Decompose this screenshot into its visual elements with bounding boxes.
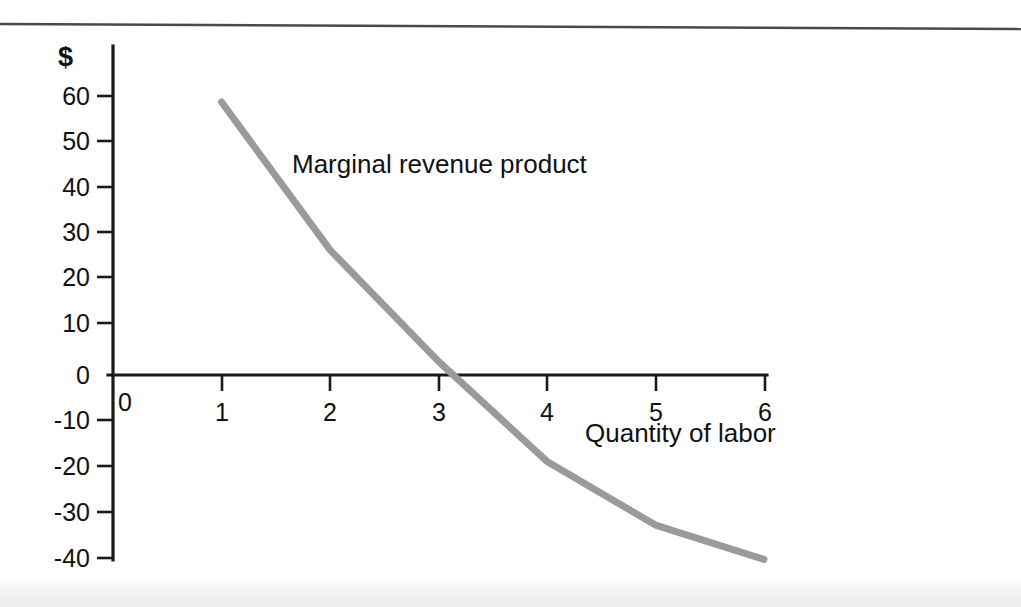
x-tick-label-3: 3 (432, 400, 446, 425)
x-tick-label-1: 1 (215, 400, 229, 425)
y-axis-ticks (97, 96, 113, 558)
y-tick-label-50: 50 (48, 129, 90, 154)
chart-plot-area (0, 0, 1021, 607)
y-tick-label-neg30: -30 (38, 500, 90, 525)
y-tick-label-neg40: -40 (38, 546, 90, 571)
y-tick-label-0: 0 (48, 363, 90, 388)
x-tick-label-0: 0 (118, 388, 132, 417)
y-tick-label-10: 10 (48, 311, 90, 336)
x-tick-label-4: 4 (540, 400, 554, 425)
x-tick-label-2: 2 (323, 400, 337, 425)
y-tick-label-40: 40 (48, 175, 90, 200)
y-tick-label-30: 30 (48, 220, 90, 245)
x-axis-title: Quantity of labor (585, 418, 776, 449)
chart-figure: $ 60 50 40 30 20 10 0 -10 -20 -30 -40 0 … (0, 0, 1021, 607)
y-tick-label-neg10: -10 (38, 408, 90, 433)
y-tick-label-60: 60 (48, 84, 90, 109)
series-annotation-label: Marginal revenue product (292, 149, 587, 180)
x-axis-ticks (222, 375, 765, 391)
y-tick-label-neg20: -20 (38, 454, 90, 479)
y-axis-title: $ (58, 42, 73, 73)
y-tick-label-20: 20 (48, 265, 90, 290)
